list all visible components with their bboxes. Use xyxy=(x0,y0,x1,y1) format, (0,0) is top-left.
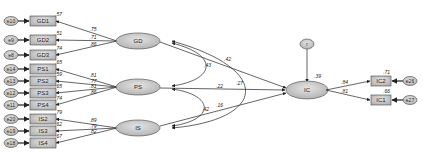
indicator-r2: .59 xyxy=(55,71,62,77)
path-gd-ic-label: .42 xyxy=(224,56,231,62)
indicator-label: GD1 xyxy=(37,18,50,24)
error-label: e9 xyxy=(8,37,14,43)
error-label: e8 xyxy=(8,52,14,58)
loading-label-ic2: .84 xyxy=(341,79,348,85)
indicator-r2: .74 xyxy=(55,95,62,101)
loading-line-gd1 xyxy=(56,21,117,41)
indicator-r2: .65 xyxy=(55,59,62,65)
loading-line-ic2 xyxy=(326,81,370,90)
corr-ps-is-label: .42 xyxy=(202,106,209,112)
indicator-label: PS2 xyxy=(37,78,49,84)
indicator-label: PS3 xyxy=(37,90,49,96)
indicator-r2: .51 xyxy=(55,30,62,36)
path-is-ic xyxy=(160,93,286,126)
indicator-label: GD2 xyxy=(37,37,50,43)
path-gd-ic xyxy=(160,42,286,88)
error-label: e14 xyxy=(7,66,16,72)
corr-gd-is xyxy=(172,41,246,128)
indicator-r2: .79 xyxy=(55,109,62,115)
error-label: e27 xyxy=(406,97,415,103)
error-label: e12 xyxy=(7,90,16,96)
corr-gd-ps-label: .43 xyxy=(204,62,211,68)
loading-line-is2 xyxy=(56,119,117,128)
latent-is-label: IS xyxy=(135,125,141,131)
indicator-r2: .66 xyxy=(383,88,390,94)
indicator-r2: .74 xyxy=(55,45,62,51)
loading-label-ic1: .81 xyxy=(341,88,348,94)
corr-ps-is xyxy=(172,89,204,126)
indicator-r2: .67 xyxy=(55,133,62,139)
latent-ps-label: PS xyxy=(134,84,142,90)
indicator-label: IS4 xyxy=(38,140,48,146)
indicator-label: IC2 xyxy=(376,78,386,84)
sem-diagram: e10GD1.57e9GD2.51e8GD3.74e14PS1.65e13PS2… xyxy=(0,0,423,155)
error-label: e13 xyxy=(7,78,16,84)
loading-line-gd3 xyxy=(56,41,117,55)
latent-ic-r2: .39 xyxy=(314,73,321,79)
loading-label-gd3: .86 xyxy=(90,41,97,47)
latent-ic-label: IC xyxy=(304,87,311,93)
error-label: e20 xyxy=(7,116,16,122)
error-label: e19 xyxy=(7,128,16,134)
error-label: e18 xyxy=(7,140,16,146)
loading-line-ic1 xyxy=(326,90,370,100)
corr-gd-is-label: .27 xyxy=(236,80,243,86)
indicator-label: IC1 xyxy=(376,97,386,103)
latent-gd-label: GD xyxy=(134,38,144,44)
error-label: e10 xyxy=(7,18,16,24)
indicator-label: GD3 xyxy=(37,52,50,58)
indicator-r2: .71 xyxy=(383,69,390,75)
indicator-label: PS1 xyxy=(37,66,49,72)
indicator-label: PS4 xyxy=(37,102,49,108)
path-ps-ic-label: .22 xyxy=(216,83,223,89)
indicator-r2: .62 xyxy=(55,121,62,127)
error-label: e11 xyxy=(7,102,15,108)
loading-label-gd1: .75 xyxy=(90,26,97,32)
indicator-r2: .57 xyxy=(55,11,62,17)
loading-label-ps4: .86 xyxy=(90,89,97,95)
indicator-label: IS2 xyxy=(38,116,48,122)
loading-label-is4: .82 xyxy=(90,128,97,134)
indicator-r2: .65 xyxy=(55,83,62,89)
indicator-label: IS3 xyxy=(38,128,48,134)
corr-gd-ps xyxy=(172,43,206,86)
error-label: e26 xyxy=(406,78,415,84)
loading-label-gd2: .71 xyxy=(90,34,97,40)
path-is-ic-label: .16 xyxy=(216,102,223,108)
loading-line-gd2 xyxy=(56,40,117,41)
